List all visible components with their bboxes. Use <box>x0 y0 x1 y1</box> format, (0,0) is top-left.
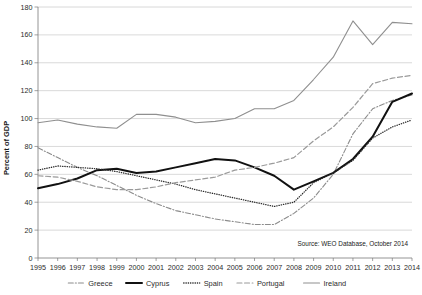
x-tick-label: 2004 <box>207 263 223 272</box>
y-tick-label: 140 <box>21 58 33 67</box>
x-tick-label: 2003 <box>187 263 203 272</box>
x-tick-label: 1995 <box>30 263 46 272</box>
series-line-ireland <box>38 21 412 128</box>
y-tick-labels: 020406080100120140160180 <box>21 3 33 263</box>
y-tick-label: 100 <box>21 114 33 123</box>
x-tick-label: 2008 <box>286 263 302 272</box>
x-tick-label: 1999 <box>109 263 125 272</box>
y-tick-label: 180 <box>21 3 33 12</box>
y-tick-label: 60 <box>25 170 33 179</box>
y-tick-label: 120 <box>21 86 33 95</box>
x-tick-labels: 1995199619971998199920002001200220032004… <box>30 263 420 272</box>
x-tick-label: 2014 <box>404 263 420 272</box>
y-tick-label: 40 <box>25 198 33 207</box>
x-tick-label: 2012 <box>365 263 381 272</box>
y-tick-label: 0 <box>29 254 33 263</box>
series-line-portugal <box>38 75 412 189</box>
series-line-cyprus <box>38 93 412 189</box>
x-tick-marks <box>38 258 412 261</box>
source-annotation: Source: WEO Database, October 2014 <box>298 240 409 247</box>
x-tick-label: 2006 <box>247 263 263 272</box>
legend-label-ireland[interactable]: Ireland <box>324 279 347 288</box>
legend-label-spain[interactable]: Spain <box>204 279 223 288</box>
y-tick-label: 80 <box>25 142 33 151</box>
x-tick-label: 1998 <box>89 263 105 272</box>
x-tick-label: 2000 <box>128 263 144 272</box>
series-line-spain <box>38 120 412 206</box>
x-tick-label: 2001 <box>148 263 164 272</box>
x-tick-label: 2010 <box>325 263 341 272</box>
x-tick-label: 2005 <box>227 263 243 272</box>
legend-label-portugal[interactable]: Portugal <box>257 279 285 288</box>
x-tick-label: 2011 <box>345 263 360 272</box>
y-tick-marks <box>35 7 39 258</box>
gridlines <box>38 7 412 230</box>
line-chart: 020406080100120140160180 199519961997199… <box>0 0 422 295</box>
legend-label-greece[interactable]: Greece <box>88 279 112 288</box>
x-tick-label: 2002 <box>168 263 184 272</box>
chart-canvas: 020406080100120140160180 199519961997199… <box>0 0 422 295</box>
x-tick-label: 1996 <box>50 263 66 272</box>
data-series-group <box>38 21 412 225</box>
x-tick-label: 1997 <box>69 263 85 272</box>
x-tick-label: 2013 <box>384 263 400 272</box>
y-tick-label: 160 <box>21 30 33 39</box>
x-tick-label: 2009 <box>306 263 322 272</box>
legend-label-cyprus[interactable]: Cyprus <box>146 279 170 288</box>
x-tick-label: 2007 <box>266 263 282 272</box>
chart-legend: GreeceCyprusSpainPortugalIreland <box>68 279 346 288</box>
y-axis-label: Percent of GDP <box>2 121 11 175</box>
y-tick-label: 20 <box>25 226 33 235</box>
